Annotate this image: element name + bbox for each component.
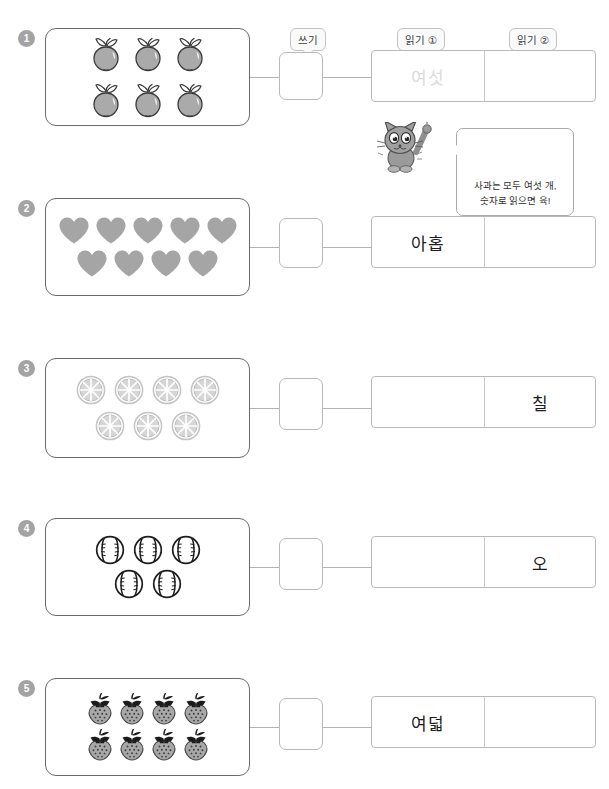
baseball-icon: [95, 535, 125, 565]
baseball-icon: [114, 569, 144, 599]
column-label-read1: 읽기 ①: [397, 28, 445, 51]
strawberry-icon: [181, 729, 211, 761]
read1-answer-cell[interactable]: [372, 377, 484, 427]
strawberry-icon: [117, 693, 147, 725]
baseball-icon: [133, 535, 163, 565]
heart-item: [187, 249, 219, 278]
heart-item: [169, 216, 201, 245]
connector-line: [250, 408, 279, 409]
orange-slice-icon: [190, 375, 220, 405]
read-answer-group: 오: [371, 536, 596, 588]
read2-answer-cell[interactable]: [484, 217, 596, 267]
heart-icon: [206, 216, 238, 245]
apple-icon: [173, 82, 207, 118]
read2-answer-cell[interactable]: 오: [484, 537, 596, 587]
item-grid: [46, 359, 249, 457]
connector-line: [250, 77, 279, 78]
apple-item: [173, 36, 207, 72]
write-answer-box[interactable]: [279, 538, 323, 590]
row-number-badge: 1: [18, 30, 35, 47]
item-row: [89, 36, 207, 72]
picture-panel-orange-slice: [45, 358, 250, 458]
picture-panel-apple: [45, 28, 250, 126]
strawberry-item: [149, 693, 179, 725]
read1-answer-cell[interactable]: 아홉: [372, 217, 484, 267]
strawberry-icon: [149, 729, 179, 761]
read1-answer-cell[interactable]: 여섯: [372, 51, 484, 101]
read2-answer-cell[interactable]: [484, 697, 596, 747]
apple-icon: [131, 82, 165, 118]
item-grid: [46, 29, 249, 125]
heart-icon: [113, 249, 145, 278]
picture-panel-heart: [45, 198, 250, 296]
heart-item: [58, 216, 90, 245]
connector-line: [250, 727, 279, 728]
apple-icon: [173, 36, 207, 72]
read2-answer-cell[interactable]: 칠: [484, 377, 596, 427]
baseball-item: [152, 569, 182, 599]
heart-item: [132, 216, 164, 245]
hint-speech-text: 사과는 모두 여섯 개, 숫자로 읽으면 육!: [474, 180, 557, 206]
row-number-badge: 4: [18, 520, 35, 537]
read2-answer-cell[interactable]: [484, 51, 596, 101]
cat-mascot-icon: [376, 122, 446, 174]
write-answer-box[interactable]: [279, 378, 323, 430]
strawberry-item: [85, 693, 115, 725]
column-label-write-text: 쓰기: [298, 34, 318, 46]
bubble-tail-icon: [449, 145, 457, 155]
strawberry-icon: [85, 693, 115, 725]
read1-answer-cell[interactable]: [372, 537, 484, 587]
orange-slice-icon: [133, 411, 163, 441]
apple-icon: [131, 36, 165, 72]
picture-panel-baseball: [45, 518, 250, 616]
item-row: [85, 729, 211, 761]
row-number-badge: 2: [18, 200, 35, 217]
baseball-item: [133, 535, 163, 565]
row-number-badge: 3: [18, 360, 35, 377]
strawberry-icon: [85, 729, 115, 761]
write-answer-box[interactable]: [279, 218, 323, 268]
apple-icon: [89, 36, 123, 72]
read-answer-group: 여섯: [371, 50, 596, 102]
heart-item: [76, 249, 108, 278]
strawberry-item: [117, 693, 147, 725]
orange-slice-icon: [171, 411, 201, 441]
heart-item: [113, 249, 145, 278]
strawberry-icon: [117, 729, 147, 761]
heart-icon: [187, 249, 219, 278]
connector-line: [323, 77, 371, 78]
heart-icon: [169, 216, 201, 245]
orange-slice-icon: [114, 375, 144, 405]
heart-icon: [150, 249, 182, 278]
baseball-item: [95, 535, 125, 565]
heart-icon: [132, 216, 164, 245]
orange-slice-icon: [76, 375, 106, 405]
column-label-write: 쓰기: [290, 28, 326, 51]
baseball-icon: [171, 535, 201, 565]
read1-answer-cell[interactable]: 여덟: [372, 697, 484, 747]
orange-slice-item: [152, 375, 182, 405]
baseball-icon: [152, 569, 182, 599]
item-row: [58, 216, 238, 245]
orange-slice-icon: [152, 375, 182, 405]
strawberry-icon: [181, 693, 211, 725]
orange-slice-item: [114, 375, 144, 405]
item-grid: [46, 199, 249, 295]
strawberry-item: [181, 693, 211, 725]
item-grid: [46, 679, 249, 775]
write-answer-box[interactable]: [279, 698, 323, 750]
apple-item: [131, 82, 165, 118]
apple-icon: [89, 82, 123, 118]
apple-item: [173, 82, 207, 118]
item-row: [89, 82, 207, 118]
heart-item: [206, 216, 238, 245]
row-number-badge: 5: [18, 680, 35, 697]
heart-item: [95, 216, 127, 245]
write-answer-box[interactable]: [279, 52, 323, 100]
column-label-read1-text: 읽기 ①: [405, 34, 437, 46]
connector-line: [250, 247, 279, 248]
heart-item: [150, 249, 182, 278]
read-answer-group: 여덟: [371, 696, 596, 748]
read-answer-group: 아홉: [371, 216, 596, 268]
orange-slice-item: [190, 375, 220, 405]
